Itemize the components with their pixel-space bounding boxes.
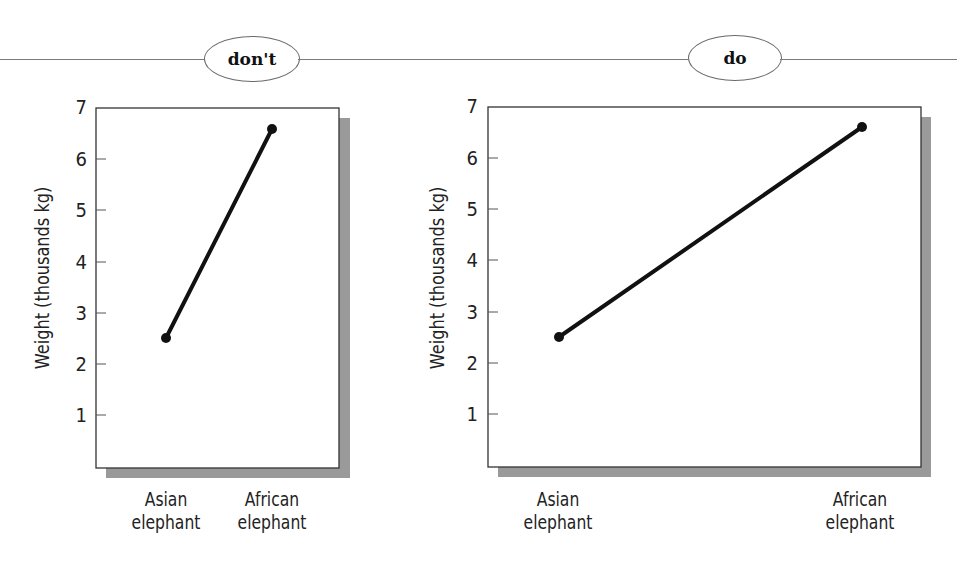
svg-text:3: 3 bbox=[467, 300, 478, 324]
chart-do: 1 2 3 4 5 6 7 Weight (thousands kg) bbox=[427, 94, 931, 477]
svg-text:5: 5 bbox=[467, 197, 478, 221]
chart-dont: 1 2 3 4 5 6 7 Weight (thousands kg) bbox=[32, 95, 350, 478]
svg-text:7: 7 bbox=[467, 94, 478, 118]
y-axis-labels: 1 2 3 4 5 6 7 bbox=[76, 95, 87, 427]
data-point-african bbox=[267, 124, 277, 134]
svg-text:2: 2 bbox=[76, 352, 87, 376]
svg-text:4: 4 bbox=[467, 248, 478, 272]
plot-frame bbox=[96, 108, 339, 468]
plot-frame bbox=[488, 107, 921, 467]
y-axis-title: Weight (thousands kg) bbox=[32, 187, 54, 370]
x-label-african-dont: African elephant bbox=[229, 488, 314, 534]
data-point-african bbox=[857, 122, 867, 132]
x-label-asian-dont: Asian elephant bbox=[125, 488, 207, 534]
svg-text:6: 6 bbox=[76, 147, 87, 171]
x-label-african-do: African elephant bbox=[817, 488, 902, 534]
y-axis-title: Weight (thousands kg) bbox=[427, 187, 449, 370]
charts-canvas: 1 2 3 4 5 6 7 Weight (thousands kg) 1 2 … bbox=[0, 0, 957, 567]
svg-text:5: 5 bbox=[76, 198, 87, 222]
svg-text:1: 1 bbox=[76, 403, 87, 427]
svg-text:2: 2 bbox=[467, 351, 478, 375]
svg-text:6: 6 bbox=[467, 146, 478, 170]
data-point-asian bbox=[554, 332, 564, 342]
y-axis-labels: 1 2 3 4 5 6 7 bbox=[467, 94, 478, 426]
svg-text:1: 1 bbox=[467, 402, 478, 426]
data-point-asian bbox=[161, 333, 171, 343]
x-label-asian-do: Asian elephant bbox=[515, 488, 600, 534]
svg-text:3: 3 bbox=[76, 301, 87, 325]
svg-text:4: 4 bbox=[76, 250, 87, 274]
svg-text:7: 7 bbox=[76, 95, 87, 119]
